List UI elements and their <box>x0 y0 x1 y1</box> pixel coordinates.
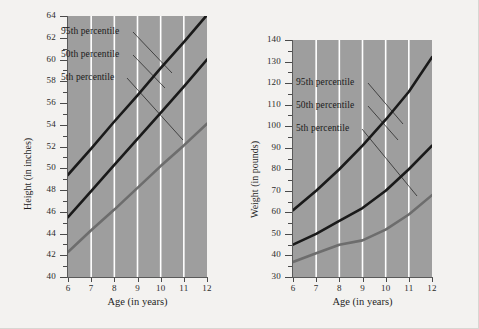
y-tick-major <box>60 277 67 278</box>
y-tick-label: 140 <box>253 34 281 44</box>
y-tick-label: 60 <box>28 54 56 64</box>
x-tick <box>386 278 387 282</box>
y-tick-minor <box>288 137 292 138</box>
y-tick-label: 56 <box>28 97 56 107</box>
y-tick-major <box>60 125 67 126</box>
y-tick-major <box>285 105 292 106</box>
y-tick-minor <box>63 201 67 202</box>
y-tick-minor <box>288 51 292 52</box>
x-tick <box>293 278 294 282</box>
height-annotation-95th: 95th percentile <box>61 26 119 36</box>
y-tick-label: 120 <box>253 77 281 87</box>
y-tick-major <box>60 103 67 104</box>
y-tick-major <box>285 169 292 170</box>
y-tick-label: 50 <box>253 228 281 238</box>
weight-chart: 14013012011010090807060504030 6789101112… <box>240 0 479 329</box>
weight-y-axis-title: Weight (in pounds) <box>249 141 260 218</box>
x-tick <box>91 278 92 282</box>
x-tick <box>432 278 433 282</box>
y-tick-major <box>60 212 67 213</box>
y-tick-minor <box>63 244 67 245</box>
y-tick-minor <box>63 136 67 137</box>
y-tick-major <box>285 234 292 235</box>
y-tick-major <box>60 234 67 235</box>
y-tick-label: 30 <box>253 271 281 281</box>
weight-x-axis-title: Age (in years) <box>293 296 432 307</box>
weight-plot-svg <box>293 40 432 277</box>
y-tick-minor <box>288 266 292 267</box>
x-tick <box>138 278 139 282</box>
y-tick-label: 64 <box>28 10 56 20</box>
y-tick-major <box>285 62 292 63</box>
y-tick-minor <box>63 157 67 158</box>
y-tick-label: 44 <box>28 228 56 238</box>
y-tick-major <box>60 255 67 256</box>
x-tick <box>161 278 162 282</box>
y-tick-major <box>60 38 67 39</box>
x-tick <box>316 278 317 282</box>
y-tick-label: 54 <box>28 119 56 129</box>
y-tick-minor <box>288 94 292 95</box>
y-tick-label: 130 <box>253 56 281 66</box>
y-tick-major <box>60 147 67 148</box>
y-tick-minor <box>288 115 292 116</box>
height-annotation-50th: 50th percentile <box>61 49 119 59</box>
weight-annotation-95th: 95th percentile <box>296 77 354 87</box>
y-tick-major <box>285 212 292 213</box>
y-tick-major <box>285 148 292 149</box>
x-tick <box>409 278 410 282</box>
y-tick-major <box>285 40 292 41</box>
weight-plot-area <box>293 40 432 277</box>
y-tick-label: 40 <box>253 249 281 259</box>
y-tick-minor <box>63 179 67 180</box>
y-tick-label: 110 <box>253 99 281 109</box>
weight-annotation-5th: 5th percentile <box>296 123 349 133</box>
y-tick-major <box>60 168 67 169</box>
y-tick-minor <box>288 159 292 160</box>
y-tick-minor <box>63 266 67 267</box>
y-tick-major <box>285 191 292 192</box>
weight-annotation-50th: 50th percentile <box>296 100 354 110</box>
y-tick-major <box>285 277 292 278</box>
x-tick <box>68 278 69 282</box>
y-tick-major <box>285 255 292 256</box>
y-tick-minor <box>288 180 292 181</box>
y-tick-major <box>285 83 292 84</box>
x-tick <box>184 278 185 282</box>
y-tick-minor <box>63 92 67 93</box>
weight-y-axis-line <box>292 40 293 278</box>
y-tick-major <box>60 16 67 17</box>
y-tick-major <box>285 126 292 127</box>
height-x-axis-title: Age (in years) <box>68 296 207 307</box>
x-tick-label: 12 <box>193 283 221 293</box>
height-annotation-5th: 5th percentile <box>61 72 114 82</box>
y-tick-label: 40 <box>28 271 56 281</box>
height-chart: 64626058565452504846444240 6789101112 He… <box>0 0 240 329</box>
y-tick-major <box>60 190 67 191</box>
y-tick-minor <box>288 223 292 224</box>
x-tick <box>339 278 340 282</box>
y-tick-minor <box>63 223 67 224</box>
y-tick-label: 100 <box>253 120 281 130</box>
height-y-axis-title: Height (in inches) <box>22 138 33 210</box>
y-tick-label: 58 <box>28 75 56 85</box>
y-tick-major <box>60 60 67 61</box>
y-tick-minor <box>288 245 292 246</box>
y-tick-label: 42 <box>28 249 56 259</box>
x-tick-label: 12 <box>418 283 446 293</box>
x-tick <box>114 278 115 282</box>
x-tick <box>363 278 364 282</box>
figure-page: 64626058565452504846444240 6789101112 He… <box>0 0 479 329</box>
y-tick-minor <box>63 114 67 115</box>
y-tick-label: 62 <box>28 32 56 42</box>
y-tick-minor <box>288 202 292 203</box>
y-tick-minor <box>288 72 292 73</box>
x-tick <box>207 278 208 282</box>
